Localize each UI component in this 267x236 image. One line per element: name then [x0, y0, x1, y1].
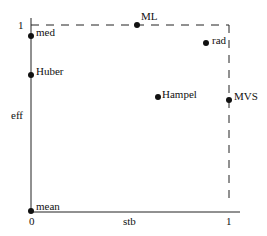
point-hampel [155, 94, 161, 100]
x-axis-label: stb [123, 216, 136, 227]
label-hampel: Hampel [162, 89, 197, 100]
x-tick-1: 1 [226, 216, 232, 227]
label-mvs: MVS [234, 91, 258, 102]
point-mvs [226, 97, 232, 103]
point-ml [134, 22, 140, 28]
point-huber [28, 72, 34, 78]
label-huber: Huber [36, 66, 64, 77]
label-rad: rad [212, 35, 226, 46]
point-mean [28, 208, 34, 214]
y-tick-1: 1 [18, 20, 24, 31]
point-med [28, 33, 34, 39]
point-rad [203, 40, 209, 46]
label-med: med [36, 27, 55, 38]
x-tick-0: 0 [29, 216, 35, 227]
label-ml: ML [141, 11, 158, 22]
y-axis-label: eff [11, 110, 23, 121]
label-mean: mean [36, 201, 60, 212]
